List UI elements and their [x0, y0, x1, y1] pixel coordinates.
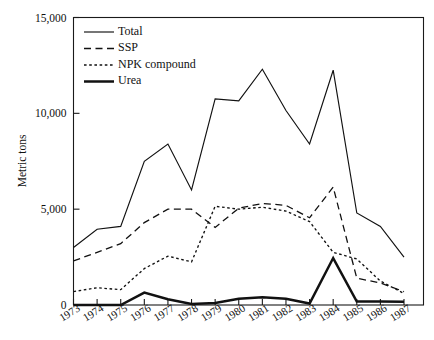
- legend-label-urea: Urea: [118, 73, 142, 87]
- chart-figure: 05,00010,00015,000 197319741975197619771…: [0, 0, 434, 340]
- y-tick-label: 15,000: [35, 12, 67, 25]
- data-series-layer: [74, 69, 405, 305]
- series-line-total: [74, 69, 405, 257]
- legend-label-ssp: SSP: [118, 40, 138, 54]
- y-tick-label: 5,000: [41, 203, 67, 216]
- legend-label-total: Total: [118, 24, 143, 38]
- legend-label-npk-compound: NPK compound: [118, 57, 196, 71]
- line-chart-svg: 05,00010,00015,000 197319741975197619771…: [0, 0, 434, 340]
- series-line-ssp: [74, 187, 405, 291]
- series-line-urea: [74, 258, 405, 305]
- y-axis-title: Metric tons: [16, 134, 28, 187]
- y-axis-ticks: [74, 18, 80, 306]
- y-axis-tick-labels: 05,00010,00015,000: [35, 12, 67, 312]
- chart-legend: TotalSSPNPK compoundUrea: [84, 24, 196, 88]
- y-tick-label: 10,000: [35, 107, 67, 120]
